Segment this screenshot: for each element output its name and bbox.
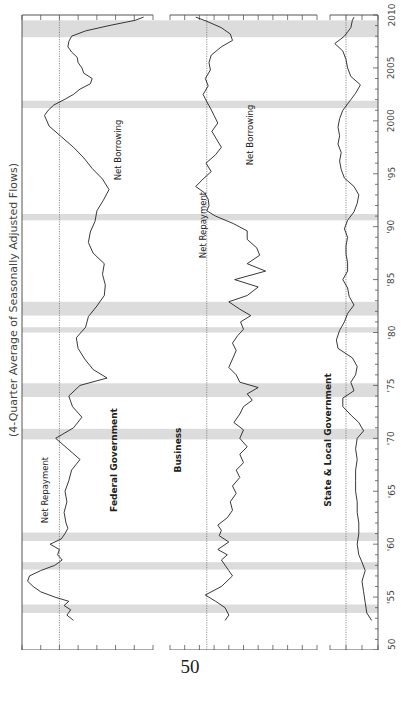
recession-band bbox=[22, 302, 378, 316]
chart-title: (4-Quarter Average of Seasonally Adjuste… bbox=[7, 163, 20, 437]
recession-band bbox=[22, 101, 378, 108]
x-tick-label: '65 bbox=[387, 484, 397, 498]
x-tick-label: '75 bbox=[387, 378, 397, 392]
page-number: 50 bbox=[0, 656, 380, 678]
x-tick-label: 2010 bbox=[387, 3, 397, 26]
x-tick-label: '95 bbox=[387, 167, 397, 181]
x-tick-label: '70 bbox=[387, 431, 397, 445]
annotation-net-repayment: Net Repayment bbox=[40, 456, 50, 523]
x-tick-label: 2000 bbox=[387, 109, 397, 132]
panel-label-state-local: State & Local Government bbox=[323, 373, 333, 507]
recession-band bbox=[22, 533, 378, 541]
rotated-chart: 1950'55'60'65'70'75'80'85'90'95200020052… bbox=[0, 0, 401, 650]
x-tick-label: '55 bbox=[387, 590, 397, 604]
recession-bands bbox=[22, 20, 378, 613]
x-tick-label: '90 bbox=[387, 219, 397, 233]
annotation-net-repayment: Net Repayment bbox=[198, 191, 208, 258]
annotation-net-borrowing: Net Borrowing bbox=[113, 120, 123, 181]
panel-label-federal: Federal Government bbox=[109, 407, 119, 511]
x-tick-label: 1950 bbox=[387, 638, 397, 650]
x-tick-label: '60 bbox=[387, 537, 397, 551]
x-tick-label: '80 bbox=[387, 325, 397, 339]
recession-band bbox=[22, 604, 378, 612]
panel-label-business: Business bbox=[173, 428, 183, 473]
labels: 1950'55'60'65'70'75'80'85'90'95200020052… bbox=[7, 3, 397, 650]
annotation-net-borrowing: Net Borrowing bbox=[245, 105, 255, 166]
x-tick-label: 2005 bbox=[387, 56, 397, 79]
recession-band bbox=[22, 562, 378, 569]
recession-band bbox=[22, 327, 378, 332]
x-tick-label: '85 bbox=[387, 273, 397, 287]
